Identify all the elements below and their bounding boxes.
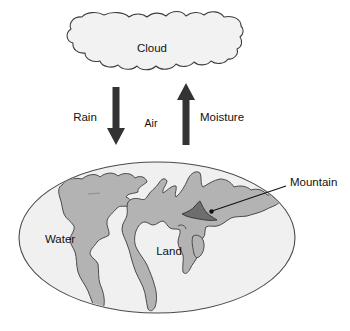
water-label: Water (45, 233, 75, 245)
air-label: Air (145, 117, 158, 129)
rain-label: Rain (73, 111, 97, 123)
water-cycle-diagram-canvas: Cloud Rain Air Moisture (0, 0, 350, 331)
moisture-arrow (177, 83, 195, 145)
land-label: Land (156, 245, 182, 257)
moisture-label: Moisture (200, 111, 244, 123)
water-cycle-diagram: Cloud Rain Air Moisture (0, 0, 350, 331)
cloud-label: Cloud (137, 42, 167, 54)
moisture-arrow-shape (177, 83, 195, 145)
mountain-label: Mountain (290, 176, 337, 188)
earth-group: Water Land Mountain (19, 162, 337, 313)
rain-arrow (107, 87, 125, 145)
rain-arrow-shape (107, 87, 125, 145)
mountain-leader-dot (209, 209, 213, 213)
cloud-group: Cloud (67, 12, 243, 70)
cloud-shape (67, 12, 243, 70)
